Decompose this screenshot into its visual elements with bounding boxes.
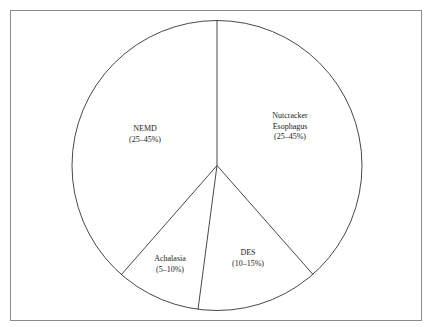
slice-label-des-range: (10–15%) [232,259,264,270]
slice-label-nemd-line1: NEMD [129,124,161,135]
slice-label-nutcracker-range: (25–45%) [272,132,308,143]
slice-label-nemd-range: (25–45%) [129,135,161,146]
slice-label-des: DES (10–15%) [232,248,264,269]
slice-label-achalasia: Achalasia (5–10%) [154,254,186,275]
pie-chart [0,0,432,327]
slice-label-nutcracker-line2: Esophagus [272,122,308,133]
slice-label-nemd: NEMD (25–45%) [129,124,161,145]
slice-label-achalasia-range: (5–10%) [154,265,186,276]
slice-label-achalasia-line1: Achalasia [154,254,186,265]
slice-label-nutcracker: Nutcracker Esophagus (25–45%) [272,111,308,143]
slice-label-des-line1: DES [232,248,264,259]
slice-label-nutcracker-line1: Nutcracker [272,111,308,122]
